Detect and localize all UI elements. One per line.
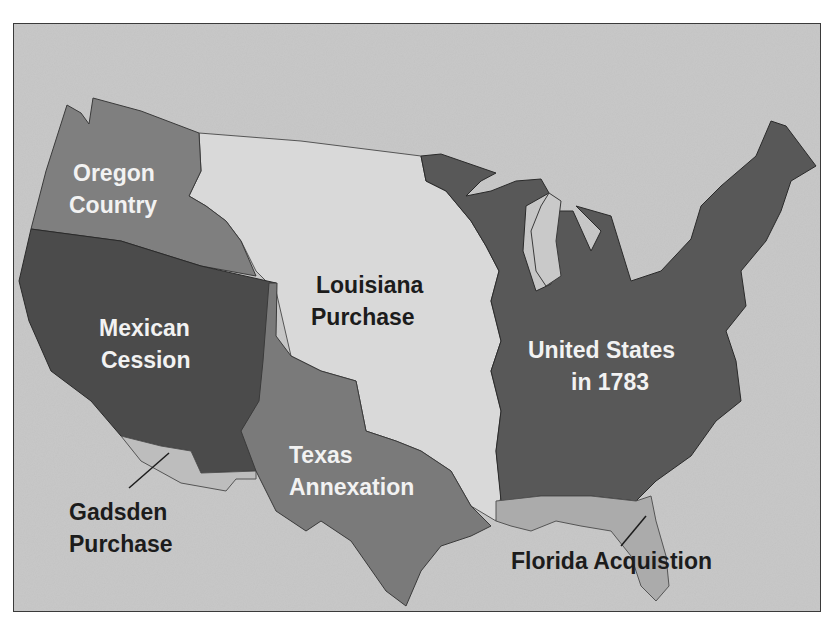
label-florida-acquisition: Florida Acquistion [511, 548, 712, 574]
map-frame: OregonCountry MexicanCession LouisianaPu… [13, 23, 821, 612]
territorial-expansion-map: OregonCountry MexicanCession LouisianaPu… [14, 24, 821, 612]
